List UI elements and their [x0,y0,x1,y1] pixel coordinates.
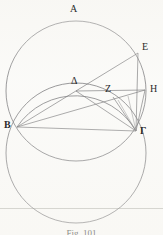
figure-caption: Fig. 101 [0,228,163,235]
point-label-b: B [4,120,11,130]
point-label-delta: Δ [71,76,78,86]
lower-circle [6,83,146,223]
point-label-e: E [142,42,148,52]
segment-delta-gamma [76,91,136,131]
point-label-gamma: Γ [140,126,147,136]
segment-b-gamma [17,127,136,131]
point-label-h: H [150,84,157,94]
point-label-a: A [70,4,77,14]
arc-b-z-gamma [17,96,136,131]
geometric-figure: A Δ B Γ E H Z Fig. 101 [0,0,163,235]
point-label-z: Z [105,84,111,94]
segment-b-e [17,53,138,127]
segment-gamma-fine-2 [128,96,136,131]
figure-canvas [0,0,163,235]
